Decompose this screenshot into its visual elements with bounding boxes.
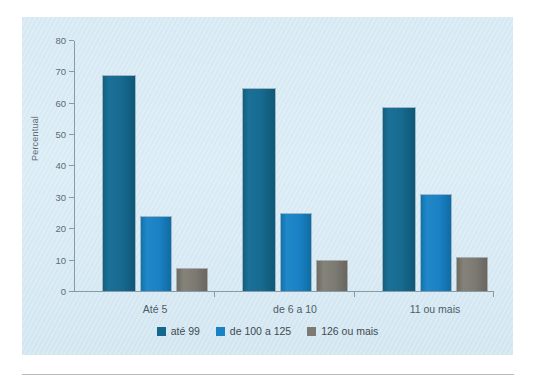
y-tick-label-20: 20 bbox=[55, 223, 66, 234]
x-axis-line bbox=[74, 291, 494, 292]
plot-area: 0 10 20 30 40 50 bbox=[74, 41, 494, 315]
bar-group-2-series-1 bbox=[420, 194, 452, 291]
bar-group-1-series-2 bbox=[316, 260, 348, 291]
legend-item-1[interactable]: de 100 a 125 bbox=[216, 325, 291, 337]
bottom-divider bbox=[22, 374, 514, 375]
y-axis-title: Percentual bbox=[30, 116, 40, 161]
x-separator-tick-3 bbox=[493, 291, 494, 297]
x-category-label-1: de 6 a 10 bbox=[273, 303, 317, 315]
bar-group-0-series-1 bbox=[140, 216, 172, 291]
y-tick-label-10: 10 bbox=[55, 254, 66, 265]
legend-label-1: de 100 a 125 bbox=[230, 325, 291, 337]
bar-group-2-series-0 bbox=[382, 107, 416, 291]
y-tick-label-30: 30 bbox=[55, 191, 66, 202]
y-axis-line bbox=[74, 41, 75, 292]
bar-group-0-series-0 bbox=[102, 75, 136, 291]
chart-legend: até 99 de 100 a 125 126 ou mais bbox=[22, 325, 513, 337]
y-tick-label-80: 80 bbox=[55, 34, 66, 45]
legend-label-0: até 99 bbox=[171, 325, 200, 337]
y-tick-label-0: 0 bbox=[61, 286, 66, 297]
bar-group-1-series-0 bbox=[242, 88, 276, 291]
y-tick-label-60: 60 bbox=[55, 97, 66, 108]
legend-item-2[interactable]: 126 ou mais bbox=[307, 325, 378, 337]
legend-swatch-icon-0 bbox=[157, 327, 166, 336]
legend-swatch-icon-1 bbox=[216, 327, 225, 336]
x-separator-tick-1 bbox=[214, 291, 215, 297]
bar-group-0-series-2 bbox=[176, 268, 208, 291]
x-category-label-2: 11 ou mais bbox=[410, 303, 461, 315]
y-tick-label-40: 40 bbox=[55, 160, 66, 171]
x-separator-tick-2 bbox=[354, 291, 355, 297]
bar-group-2-series-2 bbox=[456, 257, 488, 291]
chart-panel: Percentual 0 10 20 30 4 bbox=[22, 17, 513, 355]
y-tick-label-70: 70 bbox=[55, 66, 66, 77]
y-tick-label-50: 50 bbox=[55, 129, 66, 140]
bar-group-1-series-1 bbox=[280, 213, 312, 291]
legend-label-2: 126 ou mais bbox=[321, 325, 378, 337]
x-category-label-0: Até 5 bbox=[143, 303, 168, 315]
legend-swatch-icon-2 bbox=[307, 327, 316, 336]
chart-figure: Percentual 0 10 20 30 4 bbox=[0, 0, 536, 388]
legend-item-0[interactable]: até 99 bbox=[157, 325, 200, 337]
